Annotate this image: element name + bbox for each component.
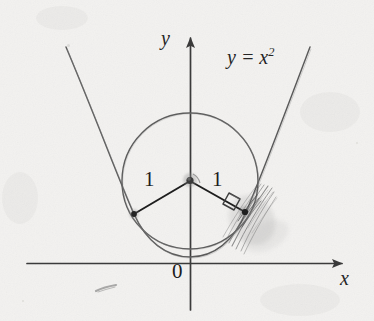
parabola-equation-label: y = x2 (227, 47, 274, 67)
figure-canvas: y x 0 y = x2 1 1 (0, 0, 374, 321)
origin-label: 0 (172, 261, 183, 282)
right-tangency-point-marker (239, 206, 251, 218)
y-axis-label: y (161, 28, 170, 48)
radius-label-left: 1 (144, 169, 155, 190)
diagram-svg (0, 0, 374, 321)
radius-label-right: 1 (212, 169, 223, 190)
x-axis-label: x (340, 268, 349, 288)
paper-background (0, 0, 374, 321)
left-tangency-point-marker (129, 209, 139, 219)
equation-base: y = x (227, 46, 268, 68)
equation-exponent: 2 (268, 45, 274, 59)
